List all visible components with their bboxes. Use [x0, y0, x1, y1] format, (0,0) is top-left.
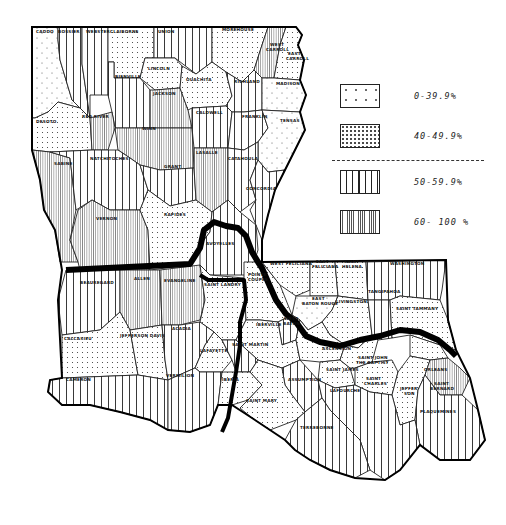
label-franklin: FRANKLIN: [242, 114, 268, 119]
label-beauregard: BEAUREGARD: [80, 280, 114, 285]
parish-vernon: [70, 200, 150, 270]
label-pointe-coupee-2: COUPEE: [248, 277, 268, 282]
legend-label: 40-49.9%: [414, 131, 463, 141]
label-lincoln: LINCOLN: [148, 66, 170, 71]
label-iberia: IBERIA: [222, 377, 239, 382]
label-saint-james: SAINT JAMES: [326, 367, 359, 372]
label-jefferson-2: SON: [404, 391, 415, 396]
label-ouachita: OUACHITA: [186, 77, 212, 82]
legend-swatch-wide-lines: [340, 170, 380, 194]
label-vernon: VERNON: [96, 216, 117, 221]
label-west-feliciana: WEST FELICIANA: [270, 261, 313, 266]
label-desoto: DESOTO: [36, 119, 57, 124]
label-avoyelles: AVOYELLES: [206, 241, 234, 246]
label-saint-charles-2: CHARLES: [364, 381, 387, 386]
label-ascension: ASCENSION: [322, 346, 351, 351]
label-saint-tammany: SAINT TAMMANY: [396, 306, 439, 311]
legend-label: 60- 100 %: [414, 217, 469, 227]
label-ebr-2: BATON ROUGE: [302, 301, 338, 306]
label-saint-landry: SAINT LANDRY: [204, 282, 242, 287]
legend-item-0-39: 0-39.9%: [340, 84, 457, 108]
label-vermilion: VERMILION: [166, 373, 194, 378]
label-east-carroll-2: CARROLL: [286, 56, 309, 61]
label-lafayette: LAFAYETTE: [200, 348, 228, 353]
legend-swatch-dense-dots: [340, 124, 380, 148]
label-caldwell: CALDWELL: [196, 110, 223, 115]
label-saint-helena-2: HELENA: [342, 264, 362, 269]
label-tangipahoa: TANGIPAHOA: [368, 289, 401, 294]
label-saint-mary: SAINT MARY: [246, 398, 278, 403]
label-evangeline: EVANGELINE: [164, 278, 195, 283]
label-sjb-2: THE BAPTIST: [356, 360, 389, 365]
label-morehouse: MOREHOUSE: [222, 27, 254, 32]
legend-item-40-49: 40-49.9%: [340, 124, 463, 148]
label-bossier: BOSSIER: [58, 29, 80, 34]
label-madison: MADISON: [276, 81, 300, 86]
parish-cameron: [48, 375, 168, 430]
label-red-river: RED RIVER: [82, 114, 110, 119]
label-jackson: JACKSON: [152, 91, 176, 96]
label-terrebonne: TERREBONNE: [300, 425, 334, 430]
label-saint-martin: SAINT MARTIN: [232, 342, 269, 347]
label-jefferson-davis: JEFFERSON DAVIS: [119, 333, 165, 338]
label-rapides: RAPIDES: [164, 212, 186, 217]
label-wbr-2: BATON: [283, 321, 300, 326]
legend-swatch-sparse-dots: [340, 84, 380, 108]
label-richland: RICHLAND: [234, 79, 260, 84]
legend-swatch-fine-lines: [340, 210, 380, 234]
label-east-feliciana-2: FELICIANA: [312, 264, 339, 269]
label-washington: WASHINGTON: [390, 261, 425, 266]
label-catahoula: CATAHOULA: [228, 156, 258, 161]
parish-washington: [366, 260, 446, 300]
label-lafourche: LAFOURCHE: [330, 388, 360, 393]
legend-label: 0-39.9%: [414, 91, 457, 101]
label-cameron: CAMERON: [66, 377, 91, 382]
label-tensas: TENSAS: [280, 118, 300, 123]
label-acadia: ACADIA: [172, 326, 192, 331]
map-legend: 0-39.9% 40-49.9% 50-59.9% 60- 100 %: [340, 78, 506, 248]
label-assumption: ASSUMPTION: [288, 377, 321, 382]
label-lasalle: LASALLE: [196, 150, 218, 155]
label-union: UNION: [158, 29, 175, 34]
label-winn: WINN: [142, 126, 156, 131]
label-allen: ALLEN: [134, 276, 150, 281]
label-saint-bernard-2: BERNARD: [430, 386, 454, 391]
label-orleans: ORLEANS: [424, 367, 447, 372]
legend-divider: [332, 160, 484, 161]
label-iberville: IBERVILLE: [256, 322, 282, 327]
label-grant: GRANT: [164, 164, 181, 169]
legend-item-50-59: 50-59.9%: [340, 170, 463, 194]
label-concordia: CONCORDIA: [246, 186, 277, 191]
label-natchitoches: NATCHITOCHES: [90, 156, 129, 161]
label-bienville: BIENVILLE: [115, 74, 141, 79]
label-webster: WEBSTER: [86, 29, 111, 34]
label-claiborne: CLAIBORNE: [110, 29, 139, 34]
label-west-carroll-2: CARROLL: [266, 47, 289, 52]
label-caddo: CADDO: [36, 29, 54, 34]
label-calcasieu: CALCASIEU: [64, 336, 92, 341]
label-livingston: LIVINGSTON: [336, 299, 367, 304]
parish-evangeline: [160, 265, 205, 325]
legend-label: 50-59.9%: [414, 177, 463, 187]
label-sabine: SABINE: [54, 161, 73, 166]
legend-item-60-100: 60- 100 %: [340, 210, 469, 234]
label-plaquemines: PLAQUEMINES: [420, 409, 456, 414]
